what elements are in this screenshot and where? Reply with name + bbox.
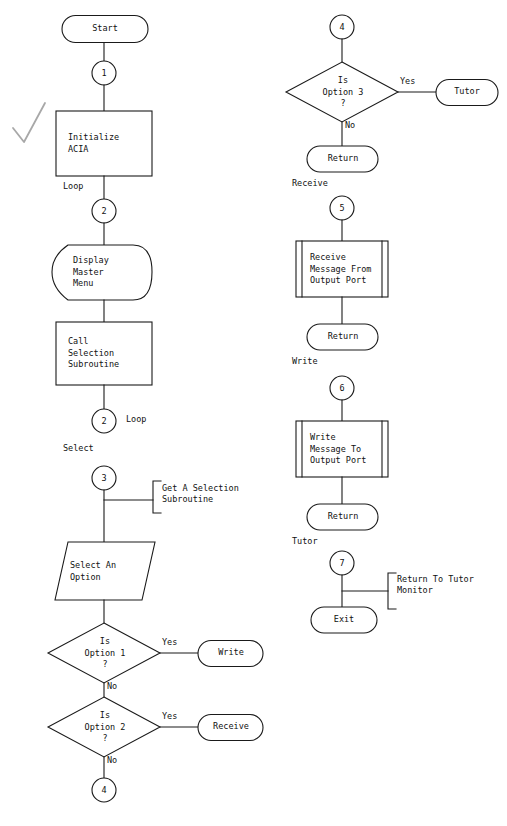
yes-label-2: Yes bbox=[162, 711, 177, 722]
write-caption: Write bbox=[292, 356, 318, 367]
receive-caption: Receive bbox=[292, 178, 328, 189]
flowchart-vector-layer bbox=[0, 0, 507, 826]
tutor-caption: Tutor bbox=[292, 536, 318, 547]
annotation-bracket-select bbox=[153, 481, 161, 513]
receive-terminal-label: Receive bbox=[213, 721, 249, 733]
no-label-2: No bbox=[107, 755, 117, 766]
start-label: Start bbox=[92, 23, 118, 35]
no-label-3: No bbox=[345, 120, 355, 131]
select-an-option-label: Select An Option bbox=[70, 560, 116, 583]
initialize-acia-label: Initialize ACIA bbox=[68, 132, 119, 155]
handwritten-check-mark bbox=[13, 103, 45, 142]
connector-5-label: 5 bbox=[339, 203, 344, 213]
return-terminal-3-label: Return bbox=[328, 511, 359, 523]
yes-label-1: Yes bbox=[162, 637, 177, 648]
loop-label-1: Loop bbox=[63, 181, 83, 192]
connector-2b-label: 2 bbox=[101, 416, 106, 426]
connector-6-label: 6 bbox=[339, 383, 344, 393]
select-caption: Select bbox=[63, 443, 94, 454]
receive-message-label: Receive Message From Output Port bbox=[310, 252, 371, 287]
call-selection-subroutine-label: Call Selection Subroutine bbox=[68, 336, 119, 371]
connector-4-top-label: 4 bbox=[339, 22, 344, 32]
decision-option-3-label: Is Option 3 ? bbox=[323, 75, 364, 110]
connector-7-label: 7 bbox=[339, 558, 344, 568]
no-label-1: No bbox=[107, 681, 117, 692]
connector-2a-label: 2 bbox=[101, 206, 106, 216]
connector-4-bottom-label: 4 bbox=[101, 785, 106, 795]
annotation-bracket-tutor bbox=[388, 573, 396, 609]
flowchart-canvas: Start 1 Initialize ACIA Loop 2 Display M… bbox=[0, 0, 507, 826]
display-master-menu-label: Display Master Menu bbox=[73, 255, 109, 290]
exit-terminal-label: Exit bbox=[334, 614, 354, 626]
decision-option-2-label: Is Option 2 ? bbox=[85, 710, 126, 745]
loop-label-2: Loop bbox=[126, 414, 146, 425]
return-terminal-1-label: Return bbox=[328, 153, 359, 165]
yes-label-3: Yes bbox=[400, 76, 415, 87]
return-terminal-2-label: Return bbox=[328, 331, 359, 343]
annotation-return-to-tutor-monitor: Return To Tutor Monitor bbox=[397, 574, 474, 596]
connector-3-label: 3 bbox=[101, 473, 106, 483]
write-message-label: Write Message To Output Port bbox=[310, 432, 366, 467]
annotation-get-a-selection-subroutine: Get A Selection Subroutine bbox=[162, 483, 239, 505]
write-terminal-label: Write bbox=[218, 647, 244, 659]
connector-1-label: 1 bbox=[101, 68, 106, 78]
decision-option-1-label: Is Option 1 ? bbox=[85, 636, 126, 671]
tutor-terminal-label: Tutor bbox=[454, 86, 480, 98]
